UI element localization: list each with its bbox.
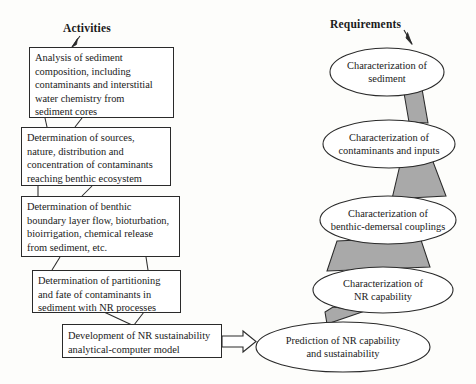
activity-box-3-line-4: from sediment, etc. — [27, 241, 174, 255]
activity-box-1-line-3: contaminants and interstitial — [35, 78, 168, 92]
activity-box-2-line-2: nature, distribution and — [27, 145, 165, 159]
diagram-canvas: Activities Requirements Analysis of sedi… — [0, 0, 476, 384]
ellipse-2-shape[interactable] — [323, 120, 455, 168]
activity-box-5-line-2: analytical-computer model — [68, 343, 216, 357]
activity-box-3-line-3: bioirrigation, chemical release — [27, 227, 174, 241]
activity-box-2[interactable]: Determination of sources, nature, distri… — [21, 127, 171, 186]
activity-box-3-line-1: Determination of benthic — [27, 200, 174, 214]
connector-box1-box2 — [45, 118, 82, 127]
activity-box-2-line-3: concentration of contaminants — [27, 158, 165, 172]
activity-box-4-line-3: sediment with NR processes — [38, 301, 175, 315]
ellipse-5-shape[interactable] — [256, 322, 430, 372]
column-title-activities: Activities — [63, 22, 111, 34]
activity-box-1-line-2: composition, including — [35, 65, 168, 79]
activities-title-leader — [72, 36, 80, 47]
ellipse-3-shape[interactable] — [320, 196, 456, 244]
activity-box-1[interactable]: Analysis of sediment composition, includ… — [29, 47, 174, 118]
activity-box-4[interactable]: Determination of partitioning and fate o… — [32, 270, 181, 313]
connector-box3-box4 — [52, 257, 148, 270]
ellipse-1-shape[interactable] — [330, 48, 444, 96]
column-title-requirements: Requirements — [330, 18, 401, 30]
activity-box-5[interactable]: Development of NR sustainability analyti… — [62, 324, 222, 358]
ellipse-4-shape[interactable] — [313, 267, 453, 313]
activity-box-3[interactable]: Determination of benthic boundary layer … — [21, 196, 180, 257]
activity-box-1-line-1: Analysis of sediment — [35, 51, 168, 65]
connector-box2-box3 — [38, 186, 92, 196]
activity-box-1-line-5: sediment cores — [35, 105, 168, 119]
activity-box-2-line-1: Determination of sources, — [27, 131, 165, 145]
requirements-title-leader — [404, 30, 412, 45]
activity-box-1-line-4: water chemistry from — [35, 92, 168, 106]
activity-box-2-line-4: reaching benthic ecosystem — [27, 172, 165, 186]
activity-box-4-line-1: Determination of partitioning — [38, 274, 175, 288]
activity-box-4-line-2: and fate of contaminants in — [38, 288, 175, 302]
activity-box-3-line-2: boundary layer flow, bioturbation, — [27, 214, 174, 228]
activity-box-5-line-1: Development of NR sustainability — [68, 329, 216, 343]
arrow-model-to-prediction — [222, 331, 256, 352]
